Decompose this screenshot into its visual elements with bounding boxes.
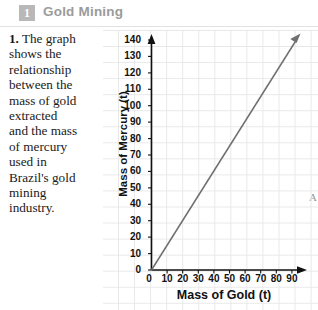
x-axis-title: Mass of Gold (t) — [139, 288, 309, 302]
problem-body: The graph shows the relationship between… — [9, 31, 77, 215]
chart-container: 0 10 20 30 40 50 60 70 80 90 100 110 120… — [103, 30, 318, 310]
y-axis-title: Mass of Mercury (t) — [117, 69, 129, 219]
y-tick-label: 130 — [111, 50, 141, 61]
x-tick-label: 90 — [280, 273, 304, 284]
page-header: 1 Gold Mining — [0, 0, 318, 27]
problem-statement: 1. The graph shows the relationship betw… — [9, 31, 79, 216]
chart-series-line — [152, 34, 301, 271]
lesson-number-badge: 1 — [19, 5, 35, 21]
y-tick-label: 140 — [111, 34, 141, 45]
header-divider — [0, 26, 318, 27]
y-tick-label: 20 — [111, 231, 141, 242]
y-tick-label: 10 — [111, 248, 141, 259]
y-axis — [148, 34, 156, 270]
problem-number: 1. — [9, 31, 19, 46]
page-title: Gold Mining — [43, 4, 123, 19]
